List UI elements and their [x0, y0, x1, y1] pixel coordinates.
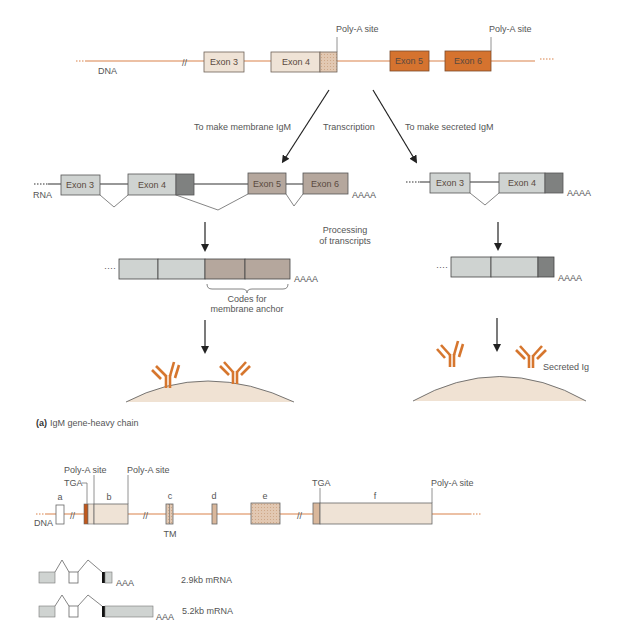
svg-text:Exon 3: Exon 3 — [210, 57, 238, 67]
svg-text:TGA: TGA — [312, 478, 331, 488]
svg-text:Poly-A site: Poly-A site — [64, 465, 107, 475]
svg-text:Exon 5: Exon 5 — [253, 179, 281, 189]
bottom-gene: DNA // // // a b TGA Poly-A site Poly-A … — [34, 465, 482, 539]
rna-label: RNA — [33, 190, 52, 200]
svg-text:c: c — [168, 491, 173, 501]
svg-text:Processing: Processing — [323, 225, 368, 235]
secreted-antibody-2 — [516, 346, 546, 368]
brace — [207, 284, 288, 293]
polya-tail: AAA — [116, 578, 134, 588]
rna-secreted: Exon 3 Exon 4 AAAA — [406, 173, 591, 205]
polya-marker-3: Poly-A site — [431, 478, 474, 503]
polya-site-1: Poly-A site — [336, 24, 379, 52]
exon-3-dna: Exon 3 — [204, 52, 244, 72]
figure-caption: (a) IgM gene-heavy chain — [36, 418, 139, 428]
svg-text:(a): (a) — [36, 418, 47, 428]
membrane-branch-label: To make membrane IgM — [194, 122, 291, 132]
transcript-5-2kb: AAA 5.2kb mRNA — [39, 595, 233, 622]
svg-text:d: d — [211, 491, 216, 501]
processing-step: Processing of transcripts — [205, 222, 498, 248]
svg-text:b: b — [106, 492, 111, 502]
tm-label: TM — [164, 529, 177, 539]
exon-4-rna-secreted: Exon 4 — [499, 173, 563, 193]
svg-text:Exon 4: Exon 4 — [282, 57, 310, 67]
splice-line — [470, 193, 499, 205]
svg-text:····: ···· — [436, 262, 448, 272]
exon-e: e — [251, 491, 280, 524]
svg-text://: // — [297, 511, 303, 521]
exon-d: d — [211, 491, 217, 524]
mrna-secreted: ···· AAAA — [436, 257, 582, 283]
brace-label-2: membrane anchor — [210, 304, 283, 314]
secreted-ig-label: Secreted Ig — [543, 362, 589, 372]
exon-6-dna: Exon 6 — [445, 51, 491, 71]
svg-text:····: ···· — [104, 263, 116, 273]
svg-text:Exon 6: Exon 6 — [454, 56, 482, 66]
brace-label-1: Codes for — [227, 294, 266, 304]
diagram-canvas: // DNA Exon 3 Exon 4 Exon 5 Exon 6 Poly-… — [0, 0, 633, 624]
splice-lines — [100, 194, 303, 210]
polya-tail-secreted: AAAA — [558, 273, 582, 283]
polya-tail: AAAA — [352, 190, 376, 200]
svg-text:f: f — [374, 491, 377, 501]
polya-tail: AAAA — [294, 274, 318, 284]
break-mark: // — [182, 58, 188, 68]
secreted-branch-label: To make secreted IgM — [405, 122, 494, 132]
svg-text:Exon 6: Exon 6 — [311, 179, 339, 189]
transcript-label: 5.2kb mRNA — [182, 606, 233, 616]
exon-f: f — [313, 491, 432, 524]
exon-4-dna: Exon 4 — [271, 52, 337, 72]
secreted-antibody-1 — [437, 341, 463, 367]
polya-marker-2: Poly-A site — [127, 465, 170, 504]
transcription-label: Transcription — [323, 122, 375, 132]
igm-diagram: // DNA Exon 3 Exon 4 Exon 5 Exon 6 Poly-… — [0, 0, 633, 624]
svg-text:Poly-A site: Poly-A site — [489, 24, 532, 34]
svg-text:a: a — [57, 492, 62, 502]
exon-5-dna: Exon 5 — [390, 51, 429, 71]
dna-label: DNA — [34, 518, 53, 528]
svg-text:Exon 3: Exon 3 — [436, 178, 464, 188]
exon-a: a — [56, 492, 64, 524]
membrane-antibody-2 — [220, 362, 250, 384]
exon-6-rna: Exon 6 — [303, 173, 348, 194]
polya-site-2: Poly-A site — [489, 24, 532, 51]
mrna-membrane: ···· AAAA Codes for membrane anchor — [104, 259, 318, 314]
svg-text:Exon 3: Exon 3 — [66, 180, 94, 190]
exon-3-rna: Exon 3 — [61, 175, 100, 195]
exon-3-rna-secreted: Exon 3 — [430, 173, 470, 193]
svg-text://: // — [70, 511, 76, 521]
svg-text:of transcripts: of transcripts — [319, 236, 371, 246]
svg-text:Exon 5: Exon 5 — [395, 56, 423, 66]
polya-tail-secreted: AAAA — [567, 188, 591, 198]
dna-label: DNA — [98, 66, 117, 76]
exon-4-rna: Exon 4 — [128, 174, 194, 195]
tga-marker-2: TGA — [312, 478, 331, 503]
svg-text:e: e — [262, 491, 267, 501]
svg-text:Exon 4: Exon 4 — [508, 178, 536, 188]
svg-text:IgM gene-heavy chain: IgM gene-heavy chain — [50, 418, 139, 428]
svg-text:Poly-A site: Poly-A site — [336, 24, 379, 34]
tga-marker-1: TGA — [64, 478, 87, 504]
exon-c-tm: c TM — [164, 491, 177, 539]
svg-text:Poly-A site: Poly-A site — [431, 478, 474, 488]
exon-5-rna: Exon 5 — [248, 173, 286, 194]
svg-text:TGA: TGA — [64, 478, 83, 488]
transcript-2-9kb: AAA 2.9kb mRNA — [39, 560, 232, 588]
svg-text://: // — [143, 511, 149, 521]
branch-arrows: To make membrane IgM Transcription To ma… — [194, 90, 494, 160]
exon-b: b — [84, 492, 128, 524]
transcript-label: 2.9kb mRNA — [181, 575, 232, 585]
rna-membrane: RNA Exon 3 Exon 4 Exon 5 Exon 6 AAAA — [33, 173, 376, 210]
svg-text:Exon 4: Exon 4 — [138, 180, 166, 190]
secreting-cell: Secreted Ig — [413, 318, 589, 401]
top-dna-strand: // DNA Exon 3 Exon 4 Exon 5 Exon 6 Poly-… — [76, 24, 555, 76]
polya-tail: AAA — [156, 612, 174, 622]
svg-text:Poly-A site: Poly-A site — [127, 465, 170, 475]
membrane-cell — [126, 320, 294, 402]
